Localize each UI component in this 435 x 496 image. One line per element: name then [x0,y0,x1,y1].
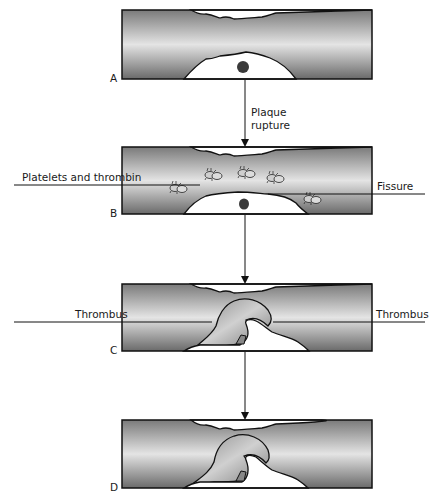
panel-label-b: B [110,207,117,219]
arrow-b-to-c [241,215,249,284]
platelets-and-thrombin-label: Platelets and thrombin [22,171,141,183]
panel-label-a: A [110,72,118,84]
arrow-c-to-d [241,352,249,420]
panel-label-d: D [110,481,118,493]
arrow-plaque-rupture: Plaque rupture [241,80,290,147]
atherothrombosis-diagram: A Plaque rupture B Platelets and thrombi… [0,0,435,496]
panel-d: D [110,420,372,493]
thrombus-right-label: Thrombus [375,308,429,320]
lipid-core [239,199,249,210]
panel-label-c: C [110,344,117,356]
plaque-rupture-label-line1: Plaque [251,106,286,118]
thrombus-left-label: Thrombus [74,308,128,320]
lipid-core [237,61,249,73]
panel-c: C [110,284,372,356]
panel-a: A [110,10,372,84]
panel-b: B [110,147,372,219]
fissure-label: Fissure [377,180,413,192]
plaque-rupture-label-line2: rupture [251,119,290,131]
